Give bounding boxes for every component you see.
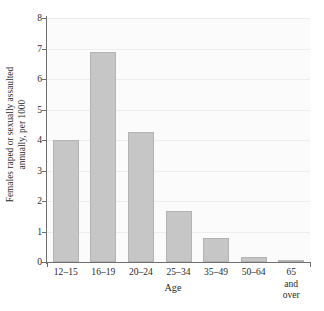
y-axis-title-line-1: Females raped or sexually assaulted [5,67,15,202]
y-axis-tick-mark [42,79,47,80]
y-axis-tick-mark [42,140,47,141]
y-axis-tick-mark [42,232,47,233]
y-axis-tick-labels: 012345678 [26,18,42,262]
bar [128,132,154,262]
bar [203,238,229,262]
x-axis-tick-label: 25–34 [167,266,191,278]
bar [90,52,116,262]
gridline [47,140,310,141]
x-axis-tick-label: 16–19 [91,266,115,278]
x-axis-line [47,262,311,263]
bar [53,140,79,262]
y-axis-tick-mark [42,110,47,111]
y-axis-tick-mark [42,49,47,50]
bar-chart-figure: Females raped or sexually assaulted annu… [0,0,324,311]
y-axis-tick-mark [42,201,47,202]
gridline [47,49,310,50]
gridline [47,201,310,202]
gridline [47,110,310,111]
x-axis-tick-mark [47,262,48,267]
gridline [47,171,310,172]
x-axis-title: Age [0,282,324,293]
bar [166,211,192,262]
x-axis-tick-label: 35–49 [204,266,228,278]
x-axis-tick-label: 12–15 [54,266,78,278]
x-axis-tick-mark [310,262,311,267]
bar [241,257,267,262]
y-axis-tick-mark [42,171,47,172]
x-axis-tick-label: 20–24 [129,266,153,278]
gridline [47,18,310,19]
y-axis-tick-mark [42,18,47,19]
gridline [47,79,310,80]
x-axis-tick-label: 50–64 [242,266,266,278]
plot-area [47,18,310,262]
bar [278,260,304,262]
